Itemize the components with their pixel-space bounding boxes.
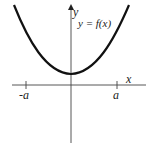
tick-label-a: a: [113, 88, 119, 102]
function-graph: y y = f(x) x -a a: [0, 0, 154, 143]
curve-f: [14, 5, 129, 74]
x-axis-label: x: [125, 72, 132, 86]
curve-label: y = f(x): [77, 17, 111, 30]
tick-label-neg-a: -a: [19, 88, 29, 102]
